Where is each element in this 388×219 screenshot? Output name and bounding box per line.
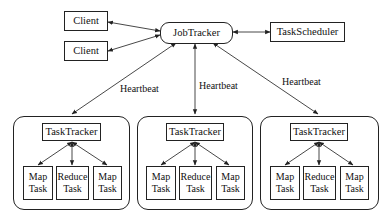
map-task-box: Map Task [93, 166, 122, 200]
task-line2: Task [221, 183, 240, 195]
task-line2: Task [276, 183, 295, 195]
task-tracker-label: TaskTracker [46, 126, 98, 138]
client-label: Client [73, 15, 99, 27]
map-task-box: Map Task [146, 166, 176, 200]
heartbeat-label-3: Heartbeat [282, 76, 321, 87]
task-line1: Reduce [58, 171, 88, 183]
heartbeat-label-2: Heartbeat [199, 80, 238, 91]
task-line1: Map [345, 171, 363, 183]
task-tracker-label: TaskTracker [169, 126, 221, 138]
task-line1: Map [152, 171, 170, 183]
task-line2: Task [29, 183, 48, 195]
job-tracker-label: JobTracker [173, 27, 220, 39]
task-line2: Task [345, 183, 364, 195]
task-scheduler-box: TaskScheduler [270, 22, 345, 42]
client-box-1: Client [64, 11, 108, 31]
task-line2: Task [63, 183, 82, 195]
task-line2: Task [310, 183, 329, 195]
client-box-2: Client [64, 41, 108, 61]
map-task-box: Map Task [23, 166, 53, 200]
task-scheduler-label: TaskScheduler [277, 26, 339, 38]
task-line1: Map [221, 171, 239, 183]
client2-jobtracker-arrow [108, 35, 160, 51]
task-tracker-label: TaskTracker [293, 126, 345, 138]
reduce-task-box: Reduce Task [303, 166, 336, 200]
job-tracker-box: JobTracker [160, 22, 233, 44]
task-line1: Map [276, 171, 294, 183]
client1-jobtracker-arrow [108, 22, 160, 31]
task-line1: Reduce [181, 171, 211, 183]
task-line1: Map [29, 171, 47, 183]
task-line1: Reduce [305, 171, 335, 183]
task-line2: Task [152, 183, 171, 195]
task-line2: Task [98, 183, 117, 195]
reduce-task-box: Reduce Task [179, 166, 212, 200]
map-task-box: Map Task [270, 166, 300, 200]
task-line1: Map [98, 171, 116, 183]
task-line2: Task [186, 183, 205, 195]
reduce-task-box: Reduce Task [56, 166, 89, 200]
task-tracker-box-1: TaskTracker [42, 123, 101, 141]
client-label: Client [73, 45, 99, 57]
heartbeat-label-1: Heartbeat [120, 83, 159, 94]
task-tracker-box-3: TaskTracker [290, 123, 348, 141]
map-task-box: Map Task [216, 166, 245, 200]
map-task-box: Map Task [340, 166, 369, 200]
task-tracker-box-2: TaskTracker [166, 123, 224, 141]
